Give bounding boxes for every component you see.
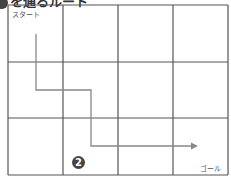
step-number-badge: 2 <box>72 156 85 169</box>
route-grid-diagram <box>0 0 231 178</box>
arrow-head-icon <box>191 143 198 150</box>
goal-label: ゴール <box>200 163 221 173</box>
route-path <box>36 34 198 150</box>
start-label: スタート <box>12 9 40 19</box>
